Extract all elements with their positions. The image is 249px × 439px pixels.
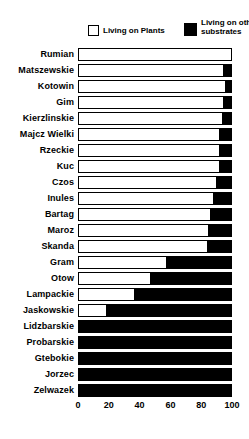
bar-segment-plants [79,161,219,172]
chart-row: Matszewskie [0,62,249,78]
category-label: Matszewskie [0,65,78,75]
category-label: Rzeckie [0,145,78,155]
chart-row: Skanda [0,238,249,254]
chart-row: Rumian [0,46,249,62]
category-label: Lidzbarskie [0,321,78,331]
stacked-bar [78,320,232,333]
legend-swatch-plants-icon [88,25,99,36]
chart-row: Czos [0,174,249,190]
chart-row: Zelwazek [0,382,249,398]
bar-segment-plants [79,129,219,140]
bar-segment-substrates [219,161,231,172]
category-label: Inules [0,193,78,203]
bar-segment-substrates [79,369,231,380]
bar-segment-plants [79,305,106,316]
chart-row: Kotowin [0,78,249,94]
stacked-bar [78,192,232,205]
chart-row: Probarskie [0,334,249,350]
x-axis-tick-label: 100 [224,400,239,410]
x-axis-tick-label: 0 [75,400,80,410]
bar-segment-substrates [166,257,231,268]
bar-segment-plants [79,177,216,188]
category-label: Rumian [0,49,78,59]
legend-label-substrates: Living on other substrates [201,18,249,36]
category-label: Maroz [0,225,78,235]
category-label: Probarskie [0,337,78,347]
bar-segment-substrates [213,193,231,204]
stacked-bar [78,176,232,189]
bar-segment-plants [79,97,223,108]
bar-segment-plants [79,49,231,60]
bar-segment-plants [79,209,210,220]
bar-segment-substrates [208,225,231,236]
bar-segment-substrates [225,81,231,92]
x-axis-tick-label: 60 [165,400,175,410]
category-label: Bartag [0,209,78,219]
stacked-bar-chart-figure: Living on Plants Living on other substra… [0,0,249,439]
chart-row: Lidzbarskie [0,318,249,334]
bar-segment-substrates [106,305,231,316]
bar-segment-substrates [219,145,231,156]
legend: Living on Plants Living on other substra… [0,16,249,42]
bar-segment-substrates [216,177,231,188]
bar-segment-plants [79,289,134,300]
x-axis: 020406080100 [78,400,232,412]
category-label: Czos [0,177,78,187]
category-label: Gim [0,97,78,107]
bar-segment-plants [79,65,223,76]
bar-segment-plants [79,273,150,284]
chart-row: Rzeckie [0,142,249,158]
bar-segment-substrates [150,273,231,284]
chart-row: Inules [0,190,249,206]
stacked-bar [78,384,232,397]
chart-row: Kierzlinskie [0,110,249,126]
stacked-bar [78,64,232,77]
category-label: Gtebokie [0,353,78,363]
stacked-bar [78,144,232,157]
stacked-bar [78,304,232,317]
bar-segment-substrates [223,65,231,76]
stacked-bar [78,272,232,285]
stacked-bar [78,368,232,381]
legend-swatch-substrates-icon [184,23,197,36]
bar-segment-substrates [223,97,231,108]
stacked-bar [78,240,232,253]
chart-row: Bartag [0,206,249,222]
category-label: Lampackie [0,289,78,299]
legend-label-plants: Living on Plants [103,26,165,35]
category-label: Otow [0,273,78,283]
bar-segment-substrates [219,129,231,140]
category-label: Skanda [0,241,78,251]
category-label: Majcz Wielki [0,129,78,139]
bar-segment-plants [79,225,208,236]
stacked-bar [78,160,232,173]
chart-row: Jorzec [0,366,249,382]
chart-row: Gtebokie [0,350,249,366]
stacked-bar [78,128,232,141]
category-label: Kierzlinskie [0,113,78,123]
bar-segment-plants [79,113,222,124]
category-label: Kuc [0,161,78,171]
stacked-bar [78,208,232,221]
bar-segment-substrates [79,321,231,332]
chart-row: Gim [0,94,249,110]
bar-chart-plot-area: RumianMatszewskieKotowinGimKierzlinskieM… [0,46,249,398]
bar-segment-plants [79,241,207,252]
category-label: Jorzec [0,369,78,379]
category-label: Jaskowskie [0,305,78,315]
chart-row: Gram [0,254,249,270]
chart-row: Lampackie [0,286,249,302]
stacked-bar [78,224,232,237]
stacked-bar [78,112,232,125]
category-label: Gram [0,257,78,267]
bar-segment-substrates [134,289,231,300]
bar-segment-plants [79,257,166,268]
bar-segment-substrates [210,209,231,220]
bar-segment-substrates [207,241,231,252]
bar-segment-plants [79,81,225,92]
chart-row: Jaskowskie [0,302,249,318]
bar-segment-plants [79,145,219,156]
bar-segment-plants [79,193,213,204]
category-label: Zelwazek [0,385,78,395]
stacked-bar [78,288,232,301]
